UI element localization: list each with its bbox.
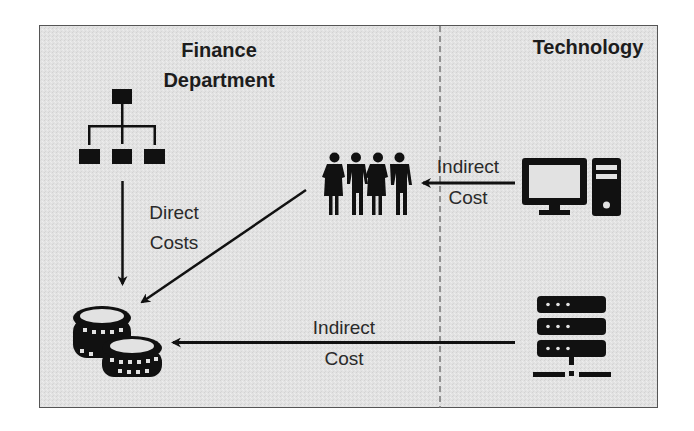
technology-title: Technology bbox=[528, 37, 648, 57]
finance-title-line1: Finance bbox=[159, 40, 279, 60]
direct-costs-label-line1: Direct bbox=[136, 203, 212, 222]
indirect-cost-bottom-label-line2: Cost bbox=[300, 349, 388, 368]
finance-title-line2: Department bbox=[149, 70, 289, 90]
indirect-cost-top-label-line1: Indirect bbox=[424, 157, 512, 176]
direct-costs-label-line2: Costs bbox=[136, 233, 212, 252]
indirect-cost-top-label-line2: Cost bbox=[424, 188, 512, 207]
indirect-cost-bottom-label-line1: Indirect bbox=[300, 318, 388, 337]
diagram-canvas: Finance Department Technology Direct Cos… bbox=[0, 0, 694, 431]
